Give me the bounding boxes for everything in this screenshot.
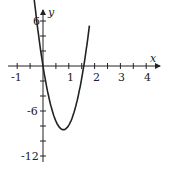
x-axis-label: x bbox=[150, 52, 157, 65]
x-tick-label: 1 bbox=[67, 71, 74, 84]
function-curve bbox=[34, 0, 89, 130]
y-tick-label: -12 bbox=[21, 150, 39, 163]
x-tick-label: 3 bbox=[118, 71, 125, 84]
x-tick-label: 4 bbox=[144, 71, 151, 84]
plot: x y -1 1 2 3 4 6 -6 -12 bbox=[0, 0, 169, 169]
y-axis-label: y bbox=[47, 6, 55, 19]
y-tick-label: -6 bbox=[27, 105, 38, 118]
x-tick-label: -1 bbox=[11, 71, 22, 84]
x-tick-label: 2 bbox=[93, 71, 100, 84]
